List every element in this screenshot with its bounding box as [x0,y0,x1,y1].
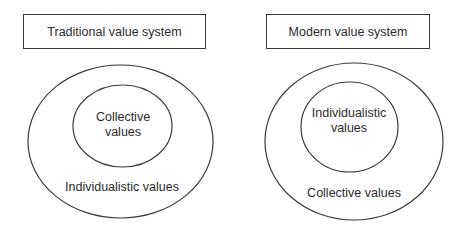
modern-inner-label: Individualistic values [312,106,386,136]
traditional-title: Traditional value system [47,25,181,39]
traditional-inner-line1: Collective [96,110,150,125]
traditional-inner-label: Collective values [96,110,150,140]
modern-title: Modern value system [289,25,408,39]
modern-title-box: Modern value system [266,14,430,49]
traditional-title-box: Traditional value system [23,14,206,49]
modern-outer-label: Collective values [307,186,401,201]
traditional-inner-line2: values [96,125,150,140]
modern-inner-line2: values [312,121,386,136]
traditional-outer-label: Individualistic values [65,180,179,195]
traditional-outer-ellipse [28,65,213,218]
modern-inner-line1: Individualistic [312,106,386,121]
